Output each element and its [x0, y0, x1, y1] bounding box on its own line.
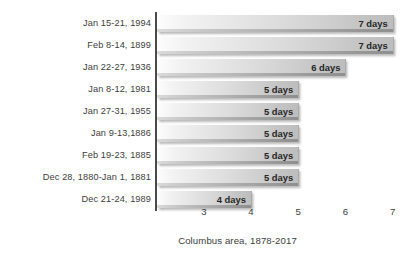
category-label: Jan 8-12, 1981 — [88, 78, 151, 100]
bar: 5 days — [157, 103, 300, 120]
bar-rows: Jan 15-21, 1994 7 days Feb 8-14, 1899 7 … — [0, 12, 417, 210]
bar-row: Jan 9-13,1886 5 days — [0, 122, 417, 144]
bar-chart: Jan 15-21, 1994 7 days Feb 8-14, 1899 7 … — [0, 0, 417, 258]
bar: 7 days — [157, 37, 394, 54]
bar-container: 7 days — [157, 15, 393, 32]
chart-caption: Columbus area, 1878-2017 — [0, 235, 417, 246]
plot-area: Jan 15-21, 1994 7 days Feb 8-14, 1899 7 … — [0, 0, 417, 215]
bar-value-label: 4 days — [217, 191, 246, 208]
bar-container: 4 days — [157, 191, 251, 208]
x-axis: 3 4 5 6 7 — [0, 206, 417, 228]
bar-row: Feb 8-14, 1899 7 days — [0, 34, 417, 56]
category-label: Dec 28, 1880-Jan 1, 1881 — [43, 166, 151, 188]
x-tick-label: 3 — [192, 206, 216, 217]
bar-row: Jan 22-27, 1936 6 days — [0, 56, 417, 78]
category-label: Jan 27-31, 1955 — [83, 100, 151, 122]
bar: 6 days — [157, 59, 347, 76]
category-label: Jan 15-21, 1994 — [83, 12, 151, 34]
bar-container: 5 days — [157, 81, 299, 98]
bar-container: 6 days — [157, 59, 346, 76]
bar-row: Jan 15-21, 1994 7 days — [0, 12, 417, 34]
category-label: Feb 8-14, 1899 — [87, 34, 151, 56]
bar-value-label: 5 days — [264, 125, 293, 142]
bar-container: 5 days — [157, 169, 299, 186]
bar-container: 5 days — [157, 125, 299, 142]
bar-row: Jan 8-12, 1981 5 days — [0, 78, 417, 100]
x-tick-label: 7 — [381, 206, 405, 217]
bar: 5 days — [157, 169, 300, 186]
bar-container: 7 days — [157, 37, 393, 54]
bar: 5 days — [157, 147, 300, 164]
bar-row: Feb 19-23, 1885 5 days — [0, 144, 417, 166]
category-label: Jan 9-13,1886 — [91, 122, 151, 144]
x-tick-label: 6 — [333, 206, 357, 217]
bar: 4 days — [157, 191, 252, 208]
category-label: Feb 19-23, 1885 — [82, 144, 151, 166]
bar-container: 5 days — [157, 147, 299, 164]
bar: 7 days — [157, 15, 394, 32]
chart-caption-text: Columbus area, 1878-2017 — [178, 235, 297, 246]
bar: 5 days — [157, 81, 300, 98]
bar-value-label: 5 days — [264, 81, 293, 98]
bar-value-label: 5 days — [264, 147, 293, 164]
bar-container: 5 days — [157, 103, 299, 120]
x-tick-label: 5 — [286, 206, 310, 217]
bar-row: Dec 28, 1880-Jan 1, 1881 5 days — [0, 166, 417, 188]
bar-value-label: 7 days — [358, 15, 387, 32]
bar: 5 days — [157, 125, 300, 142]
bar-value-label: 6 days — [311, 59, 340, 76]
bar-value-label: 7 days — [358, 37, 387, 54]
category-label: Jan 22-27, 1936 — [83, 56, 151, 78]
x-tick-label: 4 — [239, 206, 263, 217]
bar-row: Jan 27-31, 1955 5 days — [0, 100, 417, 122]
bar-value-label: 5 days — [264, 103, 293, 120]
bar-value-label: 5 days — [264, 169, 293, 186]
